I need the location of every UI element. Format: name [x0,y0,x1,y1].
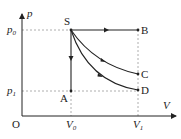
p0-label: p0 [6,23,17,37]
pv-diagram: p V O p0 p1 V0 V1 S B A C D [0,0,181,139]
p0-sub: 0 [13,29,17,37]
point-S [70,29,73,32]
point-B-label: B [141,24,148,36]
origin-label: O [12,118,20,130]
process-S-D [71,30,138,90]
point-S-label: S [64,15,70,27]
point-A [70,90,73,93]
V1-label: V1 [133,118,143,132]
point-C [137,73,140,76]
p1-label: p1 [6,84,16,98]
y-axis-label: p [26,7,33,19]
point-D-label: D [141,84,149,96]
p1-sub: 1 [13,90,17,98]
arrow-S-A-icon [69,56,74,61]
processes [71,30,138,91]
x-axis-label: V [163,99,171,111]
arrow-S-B-icon [104,28,109,33]
point-C-label: C [141,68,148,80]
point-B [137,29,140,32]
arrow-S-D-icon [98,73,104,77]
V1-sub: 1 [140,124,144,132]
V0-label: V0 [66,118,77,132]
V0-sub: 0 [73,124,77,132]
state-points [70,29,140,93]
arrow-S-C-icon [101,58,107,62]
guide-lines [22,30,138,116]
point-D [137,89,140,92]
point-A-label: A [60,92,68,104]
